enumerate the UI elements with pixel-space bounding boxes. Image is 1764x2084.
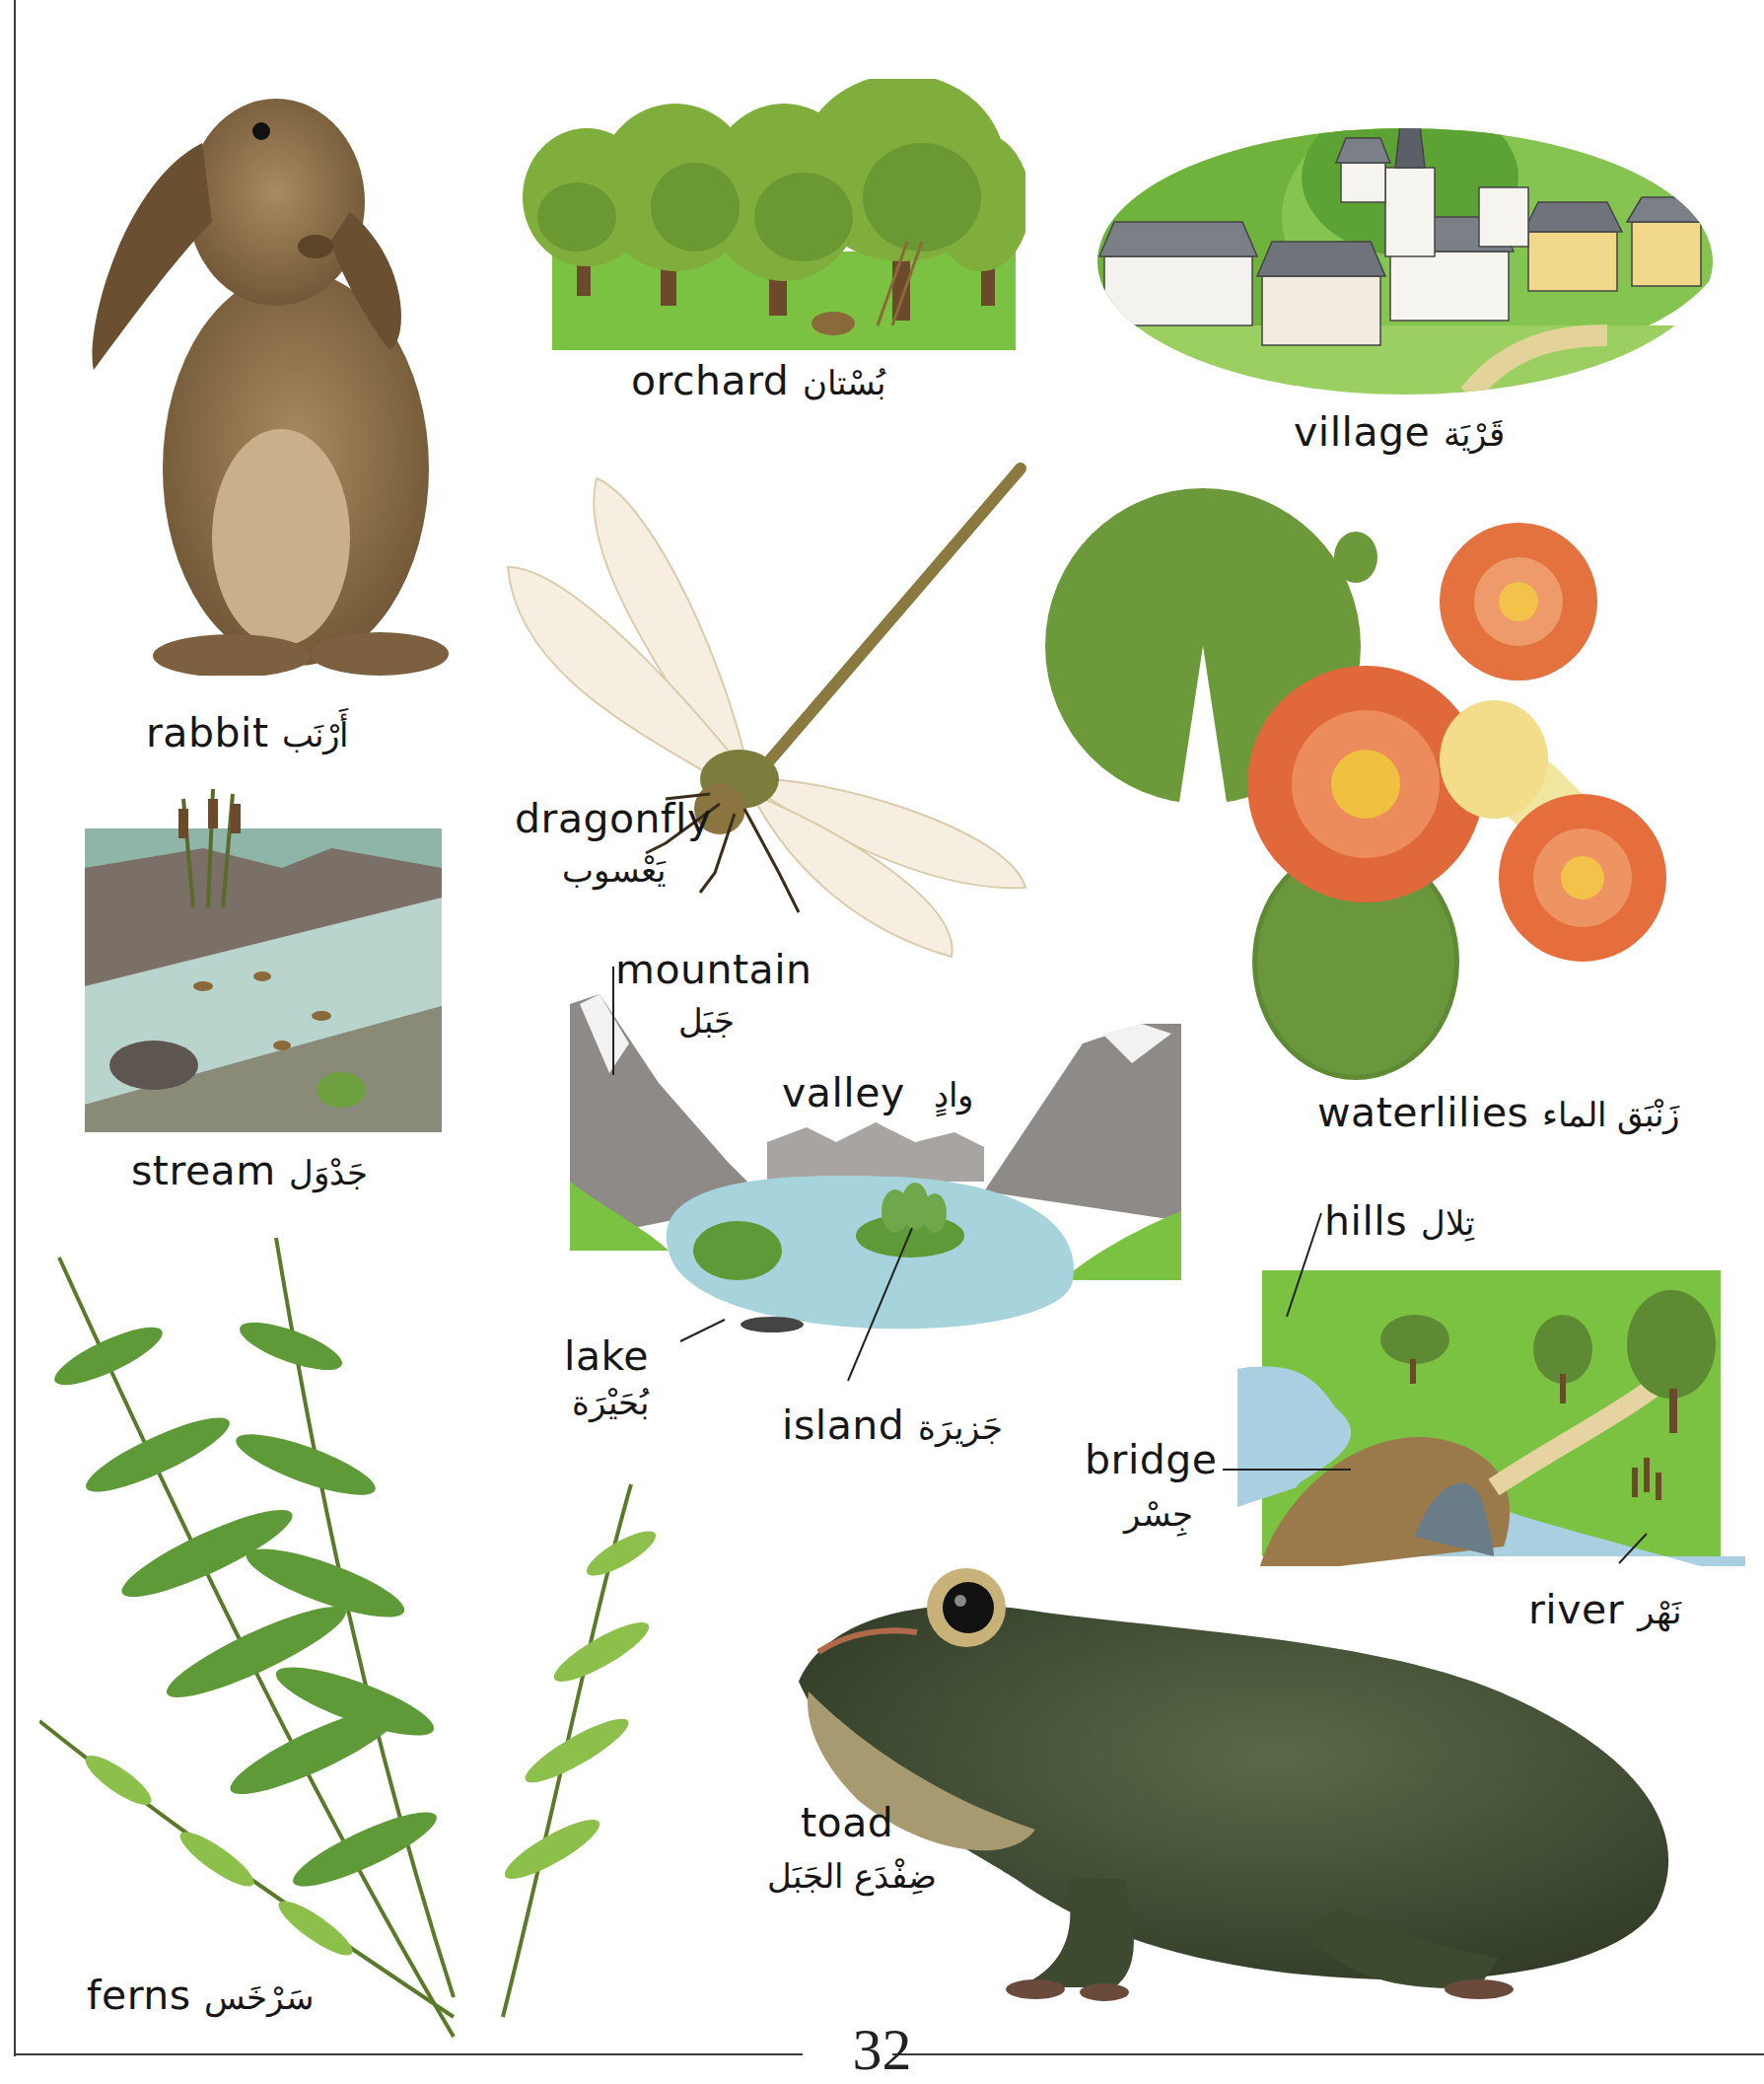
orchard-english: orchard — [631, 357, 789, 404]
orchard-illustration — [518, 79, 1025, 350]
page-left-border — [14, 0, 16, 2056]
island-label: island جَزيرَة — [782, 1405, 1003, 1446]
rabbit-arabic: أَرْنَب — [282, 715, 348, 755]
valley-label: valley وادٍ — [782, 1073, 973, 1114]
valley-arabic: وادٍ — [934, 1075, 973, 1114]
mountain-label-ar: جَبَل — [678, 1004, 735, 1038]
hills-label: hills تِلال — [1324, 1201, 1474, 1242]
valley-english: valley — [782, 1069, 905, 1116]
waterlilies-arabic: زَنْبَق الماء — [1542, 1095, 1679, 1134]
toad-label-ar: ضِفْدَع الجَبَل — [767, 1859, 937, 1893]
island-arabic: جَزيرَة — [918, 1407, 1003, 1447]
rabbit-english: rabbit — [146, 709, 269, 756]
orchard-label: orchard بُسْتان — [631, 361, 885, 401]
island-english: island — [782, 1401, 904, 1449]
hills-arabic: تِلال — [1421, 1203, 1474, 1243]
bridge-label-ar: جِسْر — [1124, 1497, 1193, 1531]
rabbit-photo — [84, 84, 449, 676]
stream-label: stream جَدْوَل — [131, 1151, 368, 1191]
toad-label-en: toad — [801, 1803, 893, 1843]
dragonfly-label-en: dragonfly — [515, 799, 712, 839]
mountain-label-en: mountain — [615, 950, 812, 990]
stream-english: stream — [131, 1147, 276, 1194]
dragonfly-label-ar: يَعْسوب — [562, 853, 666, 887]
stream-illustration — [85, 789, 442, 1132]
hills-english: hills — [1324, 1197, 1407, 1245]
ferns-label: ferns سَرْخَس — [87, 1976, 314, 2016]
waterlilies-label: waterlilies زَنْبَق الماء — [1317, 1093, 1679, 1133]
stream-arabic: جَدْوَل — [289, 1153, 368, 1192]
waterlilies-english: waterlilies — [1317, 1089, 1528, 1136]
bridge-label-en: bridge — [1085, 1440, 1218, 1480]
rabbit-label: rabbit أَرْنَب — [146, 713, 348, 754]
orchard-arabic: بُسْتان — [803, 363, 885, 402]
village-illustration — [1094, 39, 1716, 395]
ferns-english: ferns — [87, 1972, 191, 2019]
village-arabic: قَرْيَة — [1444, 414, 1505, 454]
village-label: village قَرْيَة — [1294, 412, 1505, 453]
ferns-photo — [39, 1228, 680, 2047]
ferns-arabic: سَرْخَس — [204, 1977, 314, 2017]
village-english: village — [1294, 408, 1430, 456]
toad-photo — [789, 1553, 1696, 2007]
